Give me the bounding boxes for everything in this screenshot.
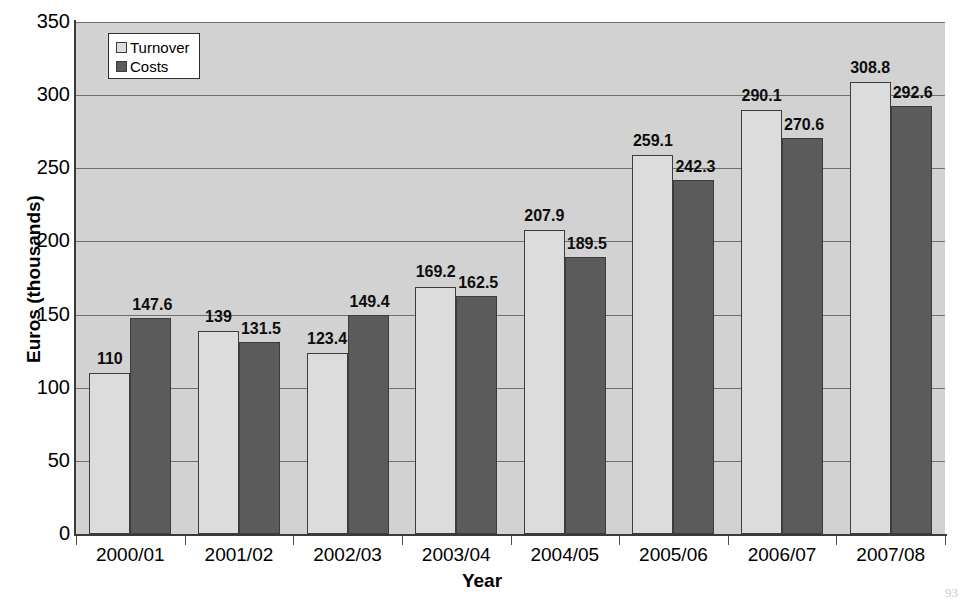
bar-group: 110147.6 (76, 22, 185, 534)
bar-costs[interactable] (456, 296, 497, 534)
x-tick-label: 2006/07 (728, 545, 837, 564)
bar-turnover[interactable] (741, 110, 782, 534)
x-tick-label: 2000/01 (76, 545, 185, 564)
y-tick-label: 0 (24, 523, 70, 543)
y-tick-label: 150 (24, 304, 70, 324)
bar-label-costs: 162.5 (458, 275, 498, 291)
y-tick-label: 250 (24, 157, 70, 177)
y-tick-label: 350 (24, 11, 70, 31)
bar-costs[interactable] (239, 342, 280, 534)
legend-item-costs: Costs (116, 57, 199, 76)
bar-label-costs: 147.6 (132, 297, 172, 313)
bar-label-costs: 270.6 (784, 117, 824, 133)
bar-group: 308.8292.6 (836, 22, 945, 534)
bar-label-costs: 242.3 (675, 159, 715, 175)
bar-group: 139131.5 (185, 22, 294, 534)
x-tick-label: 2005/06 (619, 545, 728, 564)
y-axis-ticks: 050100150200250300350 (24, 0, 70, 601)
y-tick-label: 300 (24, 84, 70, 104)
bar-label-turnover: 290.1 (723, 88, 800, 104)
bar-label-turnover: 207.9 (506, 208, 583, 224)
x-tick-mark (76, 536, 77, 545)
x-tick-label: 2007/08 (836, 545, 945, 564)
bar-group: 290.1270.6 (728, 22, 837, 534)
legend-item-turnover: Turnover (116, 38, 199, 57)
bar-group: 169.2162.5 (402, 22, 511, 534)
y-tick-label: 100 (24, 377, 70, 397)
x-tick-label: 2004/05 (511, 545, 620, 564)
bar-turnover[interactable] (307, 353, 348, 534)
y-tick-label: 200 (24, 230, 70, 250)
bar-costs[interactable] (891, 106, 932, 534)
bar-turnover[interactable] (89, 373, 130, 534)
plot-area: 110147.6139131.5123.4149.4169.2162.5207.… (76, 22, 945, 534)
x-tick-label: 2001/02 (185, 545, 294, 564)
x-tick-mark (945, 536, 946, 545)
x-tick-mark (293, 536, 294, 545)
legend-swatch-costs-icon (116, 61, 127, 72)
x-tick-mark (511, 536, 512, 545)
bar-label-costs: 131.5 (241, 321, 281, 337)
chart-legend: Turnover Costs (108, 33, 200, 79)
bar-chart: Euros (thousands) 050100150200250300350 … (0, 0, 964, 601)
bar-group: 207.9189.5 (511, 22, 620, 534)
bar-label-costs: 292.6 (893, 85, 933, 101)
bar-label-turnover: 308.8 (832, 60, 909, 76)
bar-label-costs: 149.4 (350, 294, 390, 310)
bar-label-turnover: 123.4 (289, 331, 366, 347)
x-tick-label: 2002/03 (293, 545, 402, 564)
scan-artifact-page-number: 93 (945, 585, 958, 601)
x-tick-label: 2003/04 (402, 545, 511, 564)
x-axis-title: Year (0, 570, 964, 592)
x-tick-mark (728, 536, 729, 545)
bar-label-turnover: 110 (71, 351, 148, 367)
bar-group: 259.1242.3 (619, 22, 728, 534)
bar-turnover[interactable] (850, 82, 891, 534)
x-tick-mark (836, 536, 837, 545)
bar-turnover[interactable] (198, 331, 239, 534)
bar-label-costs: 189.5 (567, 236, 607, 252)
x-tick-mark (185, 536, 186, 545)
bar-costs[interactable] (673, 180, 714, 534)
x-tick-mark (619, 536, 620, 545)
bar-costs[interactable] (565, 257, 606, 534)
legend-label-costs: Costs (130, 59, 168, 74)
y-tick-label: 50 (24, 450, 70, 470)
bar-group: 123.4149.4 (293, 22, 402, 534)
bar-costs[interactable] (782, 138, 823, 534)
x-tick-mark (402, 536, 403, 545)
bar-costs[interactable] (348, 315, 389, 534)
legend-label-turnover: Turnover (130, 40, 189, 55)
bar-turnover[interactable] (415, 287, 456, 535)
legend-swatch-turnover-icon (116, 42, 127, 53)
bar-label-turnover: 259.1 (614, 133, 691, 149)
bar-turnover[interactable] (524, 230, 565, 534)
bar-turnover[interactable] (632, 155, 673, 534)
